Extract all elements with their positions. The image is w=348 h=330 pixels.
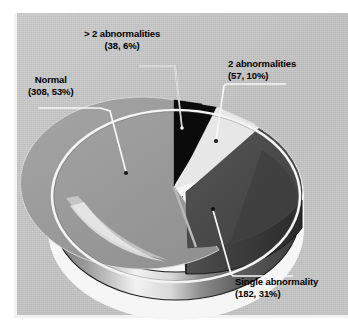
- label-single-abnormality: Single abnormality (182, 31%): [235, 276, 318, 300]
- label-single-line2: (182, 31%): [235, 288, 318, 300]
- label-2-line2: (57, 10%): [228, 70, 296, 82]
- pie-chart: > 2 abnormalities (38, 6%) 2 abnormaliti…: [0, 0, 348, 330]
- label-normal-line1: Normal: [35, 74, 67, 85]
- label-gt2-line2: (38, 6%): [84, 40, 160, 52]
- label-normal: Normal (308, 53%): [28, 74, 73, 98]
- figure-root: > 2 abnormalities (38, 6%) 2 abnormaliti…: [0, 0, 348, 330]
- label-2-line1: 2 abnormalities: [228, 58, 296, 69]
- label-single-line1: Single abnormality: [235, 276, 318, 287]
- label-2-abnormalities: 2 abnormalities (57, 10%): [228, 58, 296, 82]
- label-normal-line2: (308, 53%): [28, 86, 73, 98]
- label-gt2-abnormalities: > 2 abnormalities (38, 6%): [84, 28, 160, 52]
- label-gt2-line1: > 2 abnormalities: [84, 28, 160, 39]
